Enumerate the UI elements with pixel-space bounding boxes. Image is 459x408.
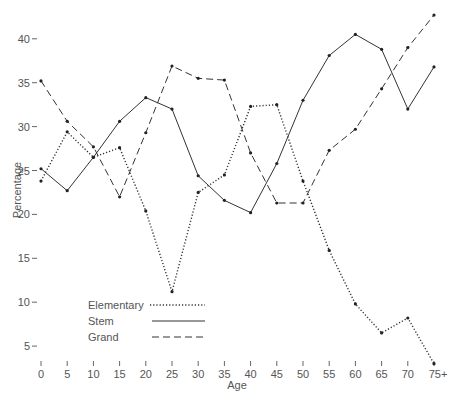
data-point [275,201,278,204]
series-line-stem [41,34,434,212]
y-axis-title: Percentage [11,162,23,218]
data-point [432,13,435,16]
y-tick-label: 35 [18,77,30,89]
data-point [39,179,42,182]
data-point [144,131,147,134]
data-point [380,87,383,90]
data-point [275,162,278,165]
y-tick-label: 5 [24,340,30,352]
data-point [197,174,200,177]
data-point [170,64,173,67]
data-point [249,151,252,154]
data-point [144,96,147,99]
data-point [301,179,304,182]
data-point [406,316,409,319]
x-tick-label: 25 [166,368,178,380]
data-point [328,249,331,252]
data-point [380,48,383,51]
x-tick-label: 0 [38,368,44,380]
data-point [380,331,383,334]
x-axis: 051015202530354045505560657075+ [38,361,447,380]
data-point [328,54,331,57]
data-point [406,107,409,110]
x-tick-label: 5 [64,368,70,380]
x-tick-label: 30 [192,368,204,380]
data-point [406,46,409,49]
y-tick-label: 30 [18,121,30,133]
x-tick-label: 70 [402,368,414,380]
data-point [197,191,200,194]
data-point [249,105,252,108]
data-point [92,145,95,148]
line-chart: 510152025303540 051015202530354045505560… [0,0,459,408]
legend: ElementaryStemGrand [88,299,205,343]
data-point [118,120,121,123]
x-tick-label: 75+ [429,368,448,380]
data-point [354,302,357,305]
x-tick-label: 10 [87,368,99,380]
data-point [223,173,226,176]
data-point [170,290,173,293]
x-tick-label: 45 [271,368,283,380]
series-line-grand [41,15,434,203]
data-point [66,130,69,133]
y-tick-label: 40 [18,33,30,45]
data-point [354,33,357,36]
data-point [275,103,278,106]
legend-label-stem: Stem [88,315,114,327]
series-lines [39,13,435,365]
data-point [66,189,69,192]
data-point [301,99,304,102]
y-tick-label: 10 [18,296,30,308]
x-axis-title: Age [227,379,247,391]
x-tick-label: 60 [349,368,361,380]
data-point [39,167,42,170]
data-point [118,146,121,149]
y-tick-label: 15 [18,252,30,264]
x-tick-label: 20 [140,368,152,380]
data-point [144,209,147,212]
data-point [118,195,121,198]
data-point [432,362,435,365]
x-tick-label: 15 [113,368,125,380]
data-point [249,211,252,214]
data-point [197,77,200,80]
data-point [39,79,42,82]
legend-label-elementary: Elementary [88,299,144,311]
data-point [66,120,69,123]
data-point [301,201,304,204]
data-point [170,107,173,110]
data-point [328,149,331,152]
x-tick-label: 65 [375,368,387,380]
x-tick-label: 55 [323,368,335,380]
data-point [92,156,95,159]
x-tick-label: 50 [297,368,309,380]
data-point [432,65,435,68]
legend-label-grand: Grand [88,331,119,343]
data-point [223,199,226,202]
data-point [223,78,226,81]
data-point [354,128,357,131]
